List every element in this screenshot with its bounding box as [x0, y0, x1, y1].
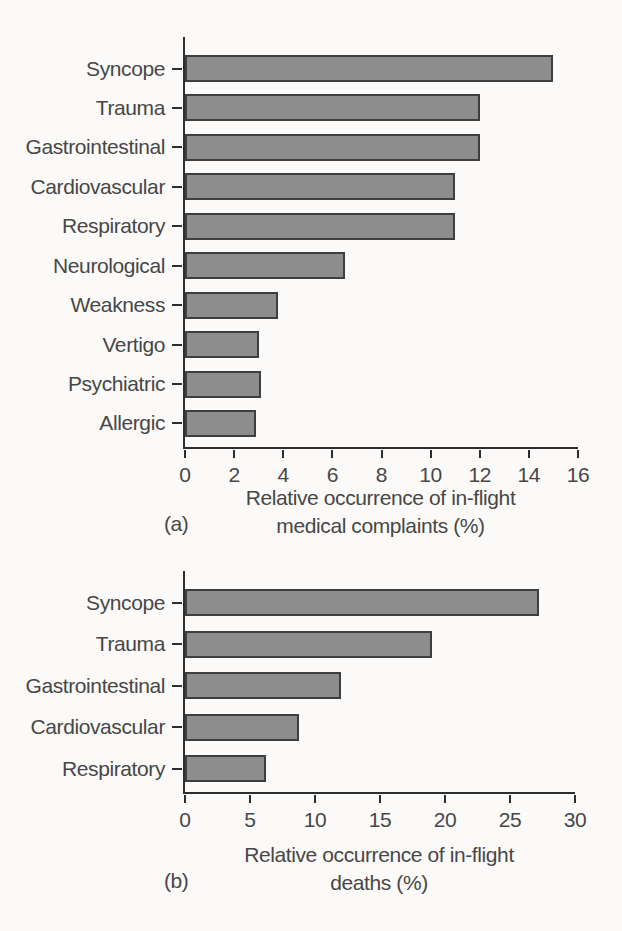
category-label-trauma: Trauma — [96, 96, 165, 120]
scanned-figure: SyncopeTraumaGastrointestinalCardiovascu… — [0, 0, 622, 931]
chart-b-plot-area: SyncopeTraumaGastrointestinalCardiovascu… — [183, 571, 575, 794]
bar-vertigo — [185, 331, 259, 358]
bar-allergic — [185, 410, 256, 437]
category-label-allergic: Allergic — [99, 411, 165, 435]
x-axis-tick-label-0: 0 — [179, 808, 190, 832]
x-axis-tick-16 — [577, 450, 579, 458]
x-axis-tick-label-5: 5 — [244, 808, 255, 832]
category-tick-cardiovascular — [172, 186, 182, 188]
bar-cardiovascular — [185, 173, 455, 200]
bar-row-neurological: Neurological — [185, 252, 578, 279]
category-tick-allergic — [172, 422, 182, 424]
x-axis-tick-6 — [331, 450, 333, 458]
category-tick-gastrointestinal — [172, 685, 182, 687]
x-axis-tick-10 — [314, 795, 316, 803]
bar-row-syncope: Syncope — [185, 589, 575, 616]
category-tick-vertigo — [172, 344, 182, 346]
bar-respiratory — [185, 213, 455, 240]
bar-row-allergic: Allergic — [185, 410, 578, 437]
bar-row-psychiatric: Psychiatric — [185, 371, 578, 398]
category-tick-trauma — [172, 107, 182, 109]
x-axis-tick-12 — [479, 450, 481, 458]
chart-b-x-axis-label: Relative occurrence of in-flight deaths … — [183, 841, 575, 897]
category-tick-syncope — [172, 602, 182, 604]
chart-a-x-axis-label-line1: Relative occurrence of in-flight — [246, 486, 516, 509]
category-tick-neurological — [172, 265, 182, 267]
bar-row-vertigo: Vertigo — [185, 331, 578, 358]
chart-b-x-axis-label-line1: Relative occurrence of in-flight — [244, 843, 514, 866]
bar-row-gastrointestinal: Gastrointestinal — [185, 134, 578, 161]
bar-row-cardiovascular: Cardiovascular — [185, 173, 578, 200]
chart-a-x-axis-label: Relative occurrence of in-flight medical… — [183, 484, 578, 540]
chart-a-x-axis-label-line2: medical complaints (%) — [276, 514, 484, 537]
category-label-cardiovascular: Cardiovascular — [31, 175, 165, 199]
chart-a-plot-area: SyncopeTraumaGastrointestinalCardiovascu… — [183, 37, 578, 449]
category-tick-weakness — [172, 304, 182, 306]
x-axis-tick-label-30: 30 — [564, 808, 587, 832]
x-axis-tick-label-20: 20 — [434, 808, 457, 832]
bar-trauma — [185, 631, 432, 658]
category-label-neurological: Neurological — [53, 254, 165, 278]
category-label-gastrointestinal: Gastrointestinal — [25, 674, 165, 698]
bar-row-weakness: Weakness — [185, 292, 578, 319]
x-axis-tick-label-10: 10 — [304, 808, 327, 832]
bar-row-trauma: Trauma — [185, 631, 575, 658]
category-label-respiratory: Respiratory — [62, 214, 165, 238]
chart-b-bar-rows: SyncopeTraumaGastrointestinalCardiovascu… — [185, 571, 575, 792]
bar-psychiatric — [185, 371, 261, 398]
x-axis-tick-2 — [233, 450, 235, 458]
bar-respiratory — [185, 755, 266, 782]
category-label-trauma: Trauma — [96, 632, 165, 656]
panel-label-a: (a) — [164, 512, 188, 536]
bar-syncope — [185, 55, 553, 82]
bar-cardiovascular — [185, 714, 299, 741]
bar-trauma — [185, 94, 480, 121]
category-label-psychiatric: Psychiatric — [68, 372, 165, 396]
category-label-respiratory: Respiratory — [62, 757, 165, 781]
x-axis-tick-5 — [249, 795, 251, 803]
chart-b-deaths: SyncopeTraumaGastrointestinalCardiovascu… — [0, 571, 622, 921]
bar-neurological — [185, 252, 345, 279]
category-tick-syncope — [172, 68, 182, 70]
x-axis-tick-0 — [184, 795, 186, 803]
category-label-gastrointestinal: Gastrointestinal — [25, 135, 165, 159]
bar-row-respiratory: Respiratory — [185, 755, 575, 782]
category-tick-gastrointestinal — [172, 146, 182, 148]
chart-a-medical-complaints: SyncopeTraumaGastrointestinalCardiovascu… — [0, 37, 622, 547]
x-axis-tick-14 — [528, 450, 530, 458]
x-axis-tick-label-25: 25 — [499, 808, 522, 832]
bar-gastrointestinal — [185, 672, 341, 699]
bar-gastrointestinal — [185, 134, 480, 161]
chart-b-x-axis-label-line2: deaths (%) — [330, 871, 428, 894]
category-label-syncope: Syncope — [86, 57, 165, 81]
bar-row-trauma: Trauma — [185, 94, 578, 121]
x-axis-tick-25 — [509, 795, 511, 803]
x-axis-tick-30 — [574, 795, 576, 803]
x-axis-tick-8 — [381, 450, 383, 458]
category-tick-cardiovascular — [172, 726, 182, 728]
x-axis-tick-label-15: 15 — [369, 808, 392, 832]
bar-syncope — [185, 589, 539, 616]
category-tick-respiratory — [172, 225, 182, 227]
category-tick-trauma — [172, 643, 182, 645]
bar-row-syncope: Syncope — [185, 55, 578, 82]
chart-a-bar-rows: SyncopeTraumaGastrointestinalCardiovascu… — [185, 37, 578, 447]
x-axis-tick-4 — [282, 450, 284, 458]
bar-row-cardiovascular: Cardiovascular — [185, 714, 575, 741]
x-axis-tick-10 — [430, 450, 432, 458]
bar-row-gastrointestinal: Gastrointestinal — [185, 672, 575, 699]
category-label-syncope: Syncope — [86, 591, 165, 615]
x-axis-tick-15 — [379, 795, 381, 803]
category-tick-psychiatric — [172, 383, 182, 385]
category-label-weakness: Weakness — [71, 293, 165, 317]
bar-weakness — [185, 292, 278, 319]
x-axis-tick-0 — [184, 450, 186, 458]
category-label-cardiovascular: Cardiovascular — [31, 715, 165, 739]
panel-label-b: (b) — [164, 869, 188, 893]
category-tick-respiratory — [172, 768, 182, 770]
category-label-vertigo: Vertigo — [102, 333, 165, 357]
bar-row-respiratory: Respiratory — [185, 213, 578, 240]
x-axis-tick-20 — [444, 795, 446, 803]
